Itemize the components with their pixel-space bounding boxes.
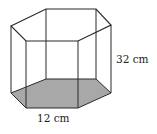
- height-label: 32 cm: [116, 53, 149, 65]
- base-edge-label: 12 cm: [37, 112, 70, 124]
- hexagonal-prism-diagram: 32 cm 12 cm: [0, 0, 157, 134]
